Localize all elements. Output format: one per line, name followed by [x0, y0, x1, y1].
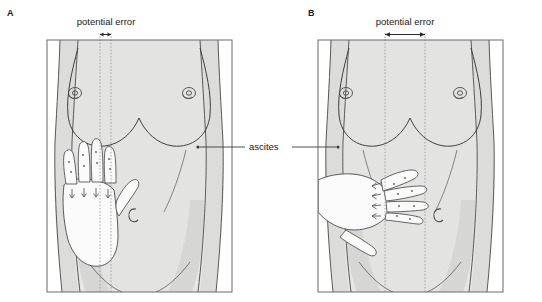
ascites-label: ascites — [249, 141, 279, 152]
panel-a-letter: A — [7, 8, 14, 18]
finger-little-a — [104, 147, 116, 184]
panel-a-body — [47, 40, 232, 292]
panel-b-potential-error-label: potential error — [364, 16, 446, 27]
figure-root: A B potential error potential error asci… — [0, 0, 542, 302]
panel-b-group — [318, 32, 503, 292]
panel-b-letter: B — [308, 8, 315, 18]
panel-a-potential-error-label: potential error — [65, 16, 147, 27]
ascites-pointer-right — [336, 145, 339, 148]
finger-middle-a — [78, 142, 90, 182]
finger-ring-b — [386, 201, 428, 212]
finger-ring-a — [91, 139, 103, 182]
panel-b-body — [318, 40, 503, 292]
panel-a-group — [47, 32, 232, 292]
error-arrow-b — [385, 32, 425, 37]
error-arrow-a — [100, 32, 111, 36]
ascites-pointer-left — [196, 145, 199, 148]
